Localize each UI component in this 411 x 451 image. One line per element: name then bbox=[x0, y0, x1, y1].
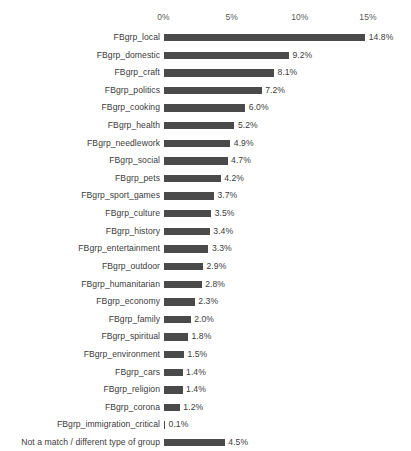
bar bbox=[164, 140, 231, 147]
bar bbox=[164, 157, 228, 164]
bar-value-label: 1.2% bbox=[183, 399, 203, 417]
bar-value-label: 14.8% bbox=[369, 29, 394, 47]
bar-row: FBgrp_domestic9.2% bbox=[0, 47, 411, 65]
category-label: FBgrp_entertainment bbox=[78, 240, 160, 258]
category-label: FBgrp_immigration_critical bbox=[57, 416, 160, 434]
bar bbox=[164, 122, 235, 129]
bar-row: FBgrp_history3.4% bbox=[0, 223, 411, 241]
bar-row: FBgrp_economy2.3% bbox=[0, 293, 411, 311]
bar-row: FBgrp_environment1.5% bbox=[0, 346, 411, 364]
bar-value-label: 2.8% bbox=[205, 276, 225, 294]
bar-value-label: 3.7% bbox=[217, 187, 237, 205]
bar-row: FBgrp_religion1.4% bbox=[0, 381, 411, 399]
bar-row: FBgrp_corona1.2% bbox=[0, 399, 411, 417]
category-label: FBgrp_corona bbox=[105, 399, 160, 417]
bar bbox=[164, 210, 212, 217]
bar-rows: FBgrp_local14.8%FBgrp_domestic9.2%FBgrp_… bbox=[0, 29, 411, 451]
bar-value-label: 3.4% bbox=[213, 223, 233, 241]
bar-row: FBgrp_politics7.2% bbox=[0, 82, 411, 100]
bar-value-label: 4.9% bbox=[234, 135, 254, 153]
bar bbox=[164, 52, 289, 59]
category-label: FBgrp_culture bbox=[105, 205, 160, 223]
bar bbox=[164, 316, 191, 323]
bar-row: FBgrp_spiritual1.8% bbox=[0, 328, 411, 346]
bar-value-label: 2.3% bbox=[198, 293, 218, 311]
bar bbox=[164, 175, 221, 182]
bar bbox=[164, 351, 184, 358]
bar-value-label: 3.5% bbox=[215, 205, 235, 223]
bar-row: FBgrp_health5.2% bbox=[0, 117, 411, 135]
bar bbox=[164, 421, 166, 428]
x-axis-tick-labels: 0%5%10%15% bbox=[0, 11, 411, 25]
bar-row: FBgrp_immigration_critical0.1% bbox=[0, 416, 411, 434]
category-label: FBgrp_needlework bbox=[87, 135, 160, 153]
bar bbox=[164, 245, 209, 252]
bar-row: FBgrp_cars1.4% bbox=[0, 364, 411, 382]
bar bbox=[164, 404, 180, 411]
category-label: FBgrp_history bbox=[106, 223, 160, 241]
bar-value-label: 2.9% bbox=[207, 258, 227, 276]
category-label: FBgrp_cars bbox=[115, 364, 160, 382]
bar-value-label: 3.3% bbox=[212, 240, 232, 258]
bar bbox=[164, 104, 246, 111]
bar-value-label: 1.5% bbox=[187, 346, 207, 364]
bar-row: FBgrp_social4.7% bbox=[0, 152, 411, 170]
bar bbox=[164, 281, 202, 288]
bar-row: FBgrp_outdoor2.9% bbox=[0, 258, 411, 276]
category-label: FBgrp_pets bbox=[115, 170, 160, 188]
x-axis-tick-3: 15% bbox=[359, 11, 376, 23]
bar-value-label: 8.1% bbox=[277, 64, 297, 82]
category-label: FBgrp_domestic bbox=[97, 47, 160, 65]
category-label: FBgrp_sport_games bbox=[81, 187, 160, 205]
category-label: FBgrp_religion bbox=[103, 381, 160, 399]
category-label: FBgrp_craft bbox=[115, 64, 160, 82]
bar-row: FBgrp_entertainment3.3% bbox=[0, 240, 411, 258]
bar bbox=[164, 386, 183, 393]
category-label: FBgrp_local bbox=[114, 29, 160, 47]
x-axis-tick-2: 10% bbox=[291, 11, 308, 23]
category-label: FBgrp_cooking bbox=[102, 99, 160, 117]
bar-value-label: 5.2% bbox=[238, 117, 258, 135]
bar bbox=[164, 34, 366, 41]
category-label: FBgrp_humanitarian bbox=[81, 276, 160, 294]
category-label: FBgrp_spiritual bbox=[101, 328, 160, 346]
bar-row: FBgrp_craft8.1% bbox=[0, 64, 411, 82]
category-label: FBgrp_outdoor bbox=[102, 258, 160, 276]
category-label: FBgrp_social bbox=[109, 152, 160, 170]
bar-row: FBgrp_pets4.2% bbox=[0, 170, 411, 188]
bar-value-label: 6.0% bbox=[249, 99, 269, 117]
bar bbox=[164, 439, 225, 446]
bar-value-label: 1.8% bbox=[192, 328, 212, 346]
bar bbox=[164, 369, 183, 376]
bar-row: FBgrp_culture3.5% bbox=[0, 205, 411, 223]
bar-row: Not a match / different type of group4.5… bbox=[0, 434, 411, 451]
bar bbox=[164, 192, 214, 199]
bar-row: FBgrp_sport_games3.7% bbox=[0, 187, 411, 205]
bar-value-label: 1.4% bbox=[186, 381, 206, 399]
bar-value-label: 1.4% bbox=[186, 364, 206, 382]
bar-value-label: 2.0% bbox=[194, 311, 214, 329]
category-label: Not a match / different type of group bbox=[21, 434, 160, 451]
category-label: FBgrp_economy bbox=[96, 293, 160, 311]
category-label: FBgrp_health bbox=[108, 117, 160, 135]
bar-value-label: 9.2% bbox=[292, 47, 312, 65]
x-axis-tick-0: 0% bbox=[157, 11, 170, 23]
bar bbox=[164, 298, 195, 305]
bar bbox=[164, 87, 262, 94]
bar-row: FBgrp_local14.8% bbox=[0, 29, 411, 47]
category-label: FBgrp_family bbox=[109, 311, 160, 329]
category-label: FBgrp_environment bbox=[84, 346, 160, 364]
category-label: FBgrp_politics bbox=[105, 82, 160, 100]
bar bbox=[164, 263, 204, 270]
bar-value-label: 4.7% bbox=[231, 152, 251, 170]
bar-row: FBgrp_humanitarian2.8% bbox=[0, 276, 411, 294]
bar-row: FBgrp_cooking6.0% bbox=[0, 99, 411, 117]
bar-value-label: 0.1% bbox=[169, 416, 189, 434]
bar bbox=[164, 228, 210, 235]
x-axis-tick-1: 5% bbox=[225, 11, 238, 23]
bar bbox=[164, 333, 189, 340]
bar-row: FBgrp_family2.0% bbox=[0, 311, 411, 329]
bar-value-label: 4.5% bbox=[228, 434, 248, 451]
bar bbox=[164, 69, 274, 76]
